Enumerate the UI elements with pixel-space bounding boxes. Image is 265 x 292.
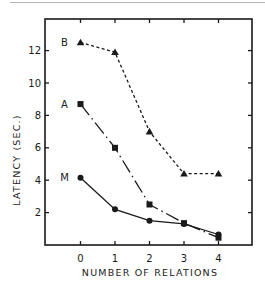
series-line — [81, 104, 219, 238]
series-a: A — [61, 99, 221, 241]
y-tick-label: 2 — [35, 207, 41, 218]
data-point-circle — [112, 206, 118, 212]
series-line — [81, 43, 219, 174]
data-point-circle — [147, 218, 153, 224]
x-axis-title: NUMBER OF RELATIONS — [82, 267, 218, 278]
x-tick-label: 0 — [77, 253, 83, 264]
y-tick-label: 8 — [35, 110, 41, 121]
data-point-circle — [78, 175, 84, 181]
data-point-triangle — [146, 128, 154, 135]
data-point-square — [147, 202, 153, 208]
y-axis-title: LATENCY (SEC.) — [11, 114, 22, 205]
series-label: A — [61, 99, 68, 110]
x-axis-ticks: 01234 — [77, 19, 221, 264]
x-tick-label: 3 — [181, 253, 187, 264]
y-tick-label: 12 — [28, 45, 41, 56]
y-tick-label: 4 — [35, 175, 41, 186]
line-chart: 01234 24681012 BAM NUMBER OF RELATIONS L… — [0, 0, 265, 292]
x-tick-label: 1 — [112, 253, 118, 264]
y-tick-label: 10 — [28, 78, 41, 89]
data-point-circle — [216, 231, 222, 237]
data-point-triangle — [215, 170, 223, 177]
x-tick-label: 2 — [146, 253, 152, 264]
data-point-triangle — [77, 39, 85, 46]
series-label: B — [61, 37, 68, 48]
series-m: M — [60, 172, 221, 237]
data-point-circle — [181, 221, 187, 227]
y-axis-ticks: 24681012 — [28, 45, 252, 218]
series-b: B — [61, 37, 222, 177]
x-tick-label: 4 — [215, 253, 221, 264]
data-point-square — [112, 145, 118, 151]
series-layer: BAM — [60, 37, 222, 241]
y-tick-label: 6 — [35, 142, 41, 153]
series-label: M — [60, 172, 69, 183]
data-point-square — [78, 101, 84, 107]
